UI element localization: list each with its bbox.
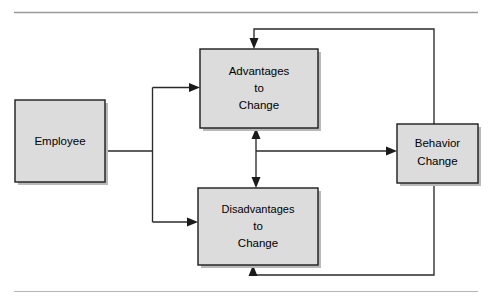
node-employee[interactable]: Employee	[15, 100, 108, 185]
node-disadvantages[interactable]: Disadvantages to Change	[198, 188, 321, 268]
node-advantages-label-line3: Change	[239, 99, 279, 111]
arrowhead-into-behavior-change-left	[386, 147, 397, 156]
node-disadvantages-label-line1: Disadvantages	[222, 203, 295, 215]
node-disadvantages-label-line2: to	[253, 220, 263, 232]
figure-container: Employee Advantages to Change Disadvanta…	[0, 0, 493, 299]
arrowhead-into-disadvantages-left	[187, 218, 198, 227]
arrowhead-into-advantages-top	[250, 38, 259, 49]
arrowhead-down-into-disadvantages-top	[252, 177, 261, 188]
node-behavior-change-box[interactable]	[397, 124, 478, 183]
node-behavior-change-label-line2: Change	[417, 155, 457, 167]
node-advantages-label-line1: Advantages	[229, 65, 290, 77]
node-behavior-change-label-line1: Behavior	[415, 137, 461, 149]
node-disadvantages-label-line3: Change	[238, 237, 278, 249]
diagram-canvas: Employee Advantages to Change Disadvanta…	[0, 0, 493, 299]
node-employee-label: Employee	[34, 135, 85, 147]
node-advantages-label-line2: to	[254, 82, 264, 94]
node-behavior-change[interactable]: Behavior Change	[397, 124, 481, 186]
arrowhead-into-advantages-left	[189, 83, 200, 92]
node-advantages[interactable]: Advantages to Change	[200, 49, 321, 131]
